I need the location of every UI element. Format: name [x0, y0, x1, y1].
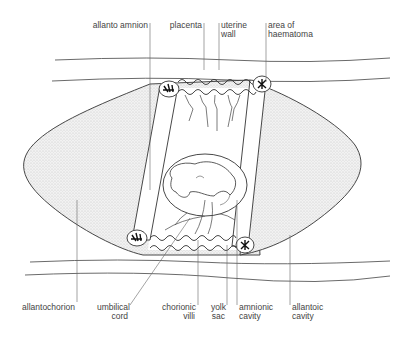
diagram-canvas: allanto amnion placenta uterine wall are… — [0, 0, 409, 337]
label-haematoma: haematoma — [268, 30, 313, 39]
label-placenta: placenta — [160, 21, 202, 30]
label-sac: sac — [204, 312, 225, 321]
label-cord: cord — [88, 312, 128, 321]
label-wall: wall — [221, 30, 236, 39]
label-allanto-amnion: allanto amnion — [86, 21, 148, 30]
label-allantochorion: allantochorion — [10, 303, 75, 312]
label-amnionic-cavity: cavity — [239, 312, 261, 321]
diagram-drawing — [0, 0, 409, 337]
label-villi: villi — [150, 312, 195, 321]
label-allantoic-cavity: cavity — [292, 312, 314, 321]
